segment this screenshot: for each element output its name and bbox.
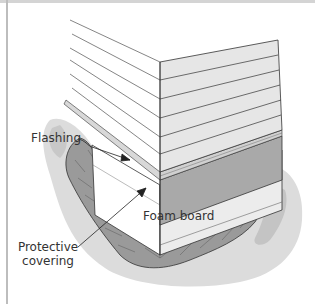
flashing-label: Flashing [31,131,81,145]
protective-covering-label-line2: covering [16,254,80,268]
foam-board-label: Foam board [143,209,214,223]
siding-lines-left [70,20,160,154]
protective-covering-label-line1: Protective [16,240,80,254]
protective-covering-label: Protective covering [16,240,80,268]
